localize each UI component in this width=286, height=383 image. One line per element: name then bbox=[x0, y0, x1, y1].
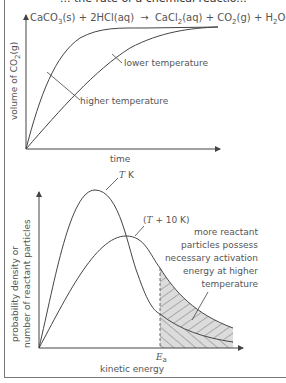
svg-text:more reactant: more reactant bbox=[194, 227, 258, 237]
T10-leader-line bbox=[135, 226, 144, 236]
lower-temperature-curve bbox=[26, 27, 218, 149]
y-axis-label-line1: probability density or bbox=[10, 246, 20, 342]
rate-graph: CaCO3(s) + 2HCl(aq) → CaCl2(aq) + CO2(g)… bbox=[9, 12, 286, 164]
ea-label: Ea bbox=[155, 352, 167, 364]
y-axis-label: volume of CO2(g) bbox=[9, 42, 22, 120]
maxwell-boltzmann-graph: T K (T + 10 K) more reactant particles p… bbox=[10, 170, 258, 374]
higher-temperature-curve bbox=[26, 27, 218, 149]
lower-temperature-label: lower temperature bbox=[124, 58, 208, 68]
activation-annotation: more reactant particles possess necessar… bbox=[165, 227, 259, 289]
curve-T-label: T K bbox=[119, 170, 135, 180]
lower-leader-line bbox=[112, 54, 122, 63]
svg-text:energy at higher: energy at higher bbox=[183, 266, 258, 276]
T-leader-line bbox=[106, 178, 118, 190]
curve-T10-label: (T + 10 K) bbox=[143, 215, 190, 225]
svg-text:particles possess: particles possess bbox=[181, 240, 258, 250]
svg-text:temperature: temperature bbox=[201, 279, 258, 289]
figure-canvas: CaCO3(s) + 2HCl(aq) → CaCl2(aq) + CO2(g)… bbox=[0, 0, 286, 383]
higher-temperature-label: higher temperature bbox=[80, 96, 169, 106]
x-axis-label: kinetic energy bbox=[100, 364, 165, 374]
reaction-equation: CaCO3(s) + 2HCl(aq) → CaCl2(aq) + CO2(g)… bbox=[30, 12, 286, 26]
y-axis-label-line2: number of reactant particles bbox=[22, 219, 32, 348]
higher-leader-line bbox=[47, 72, 80, 100]
svg-text:necessary activation: necessary activation bbox=[165, 253, 258, 263]
x-axis-label: time bbox=[110, 154, 131, 164]
